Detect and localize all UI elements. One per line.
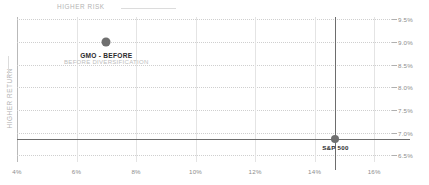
y-axis-tick-label: 8.5% — [398, 61, 413, 68]
y-axis-tick-label: 8.0% — [398, 84, 413, 91]
data-point-sublabel: BEFORE DIVERSIFICATION — [64, 59, 149, 65]
x-axis-tick-label: 14% — [308, 168, 321, 175]
data-point-marker[interactable] — [102, 37, 111, 46]
y-axis-tick-label: 6.5% — [398, 152, 413, 159]
x-axis-caption: HIGHER RISK — [57, 3, 105, 10]
y-axis-caption: HIGHER RETURN — [6, 69, 13, 129]
y-axis-tick-label: 7.5% — [398, 106, 413, 113]
y-axis-tick-mark — [392, 155, 397, 156]
x-axis-tick-label: 12% — [249, 168, 262, 175]
y-axis-tick-mark — [392, 87, 397, 88]
y-axis-tick-mark — [392, 65, 397, 66]
x-axis-tick-label: 10% — [189, 168, 202, 175]
y-axis-caption-rule — [8, 56, 9, 78]
x-axis-tick-label: 8% — [131, 168, 140, 175]
x-axis-tick-label: 6% — [72, 168, 81, 175]
x-axis-caption-rule — [121, 8, 176, 9]
y-axis-tick-mark — [392, 42, 397, 43]
y-axis-tick-label: 7.0% — [398, 129, 413, 136]
benchmark-horizontal-line — [17, 139, 410, 140]
y-axis-tick-mark — [392, 19, 397, 20]
data-point-name: S&P 500 — [322, 144, 348, 151]
data-point-label: S&P 500 — [322, 144, 348, 151]
data-point-label: GMO - BEFOREBEFORE DIVERSIFICATION — [64, 52, 149, 66]
risk-return-scatter-chart: 9.5%9.0%8.5%8.0%7.5%7.0%6.5% 4%6%8%10%12… — [0, 0, 429, 185]
y-axis-tick-label: 9.0% — [398, 38, 413, 45]
y-axis-tick-mark — [392, 110, 397, 111]
y-axis-tick-label: 9.5% — [398, 16, 413, 23]
y-axis-tick-mark — [392, 133, 397, 134]
x-axis-tick-label: 16% — [368, 168, 381, 175]
x-axis-tick-label: 4% — [12, 168, 21, 175]
data-point-name: GMO - BEFORE — [64, 52, 149, 59]
data-point-marker[interactable] — [331, 135, 339, 143]
